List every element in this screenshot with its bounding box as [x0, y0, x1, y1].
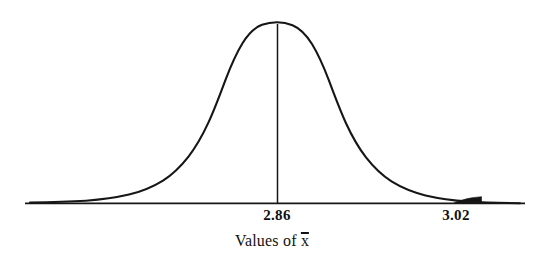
tick-label-critical-value: 3.02	[442, 208, 469, 223]
tick-label-mean: 2.86	[263, 208, 290, 223]
x-bar-symbol: x	[301, 232, 309, 249]
normal-curve-plot	[0, 0, 542, 266]
overbar-rule	[301, 232, 309, 234]
x-axis-caption: Values of x	[235, 232, 309, 249]
density-curve	[30, 22, 520, 203]
distribution-figure: 2.86 3.02 Values of x	[0, 0, 542, 266]
x-axis-caption-text: Values of	[235, 232, 301, 249]
x-bar-letter: x	[301, 232, 309, 249]
